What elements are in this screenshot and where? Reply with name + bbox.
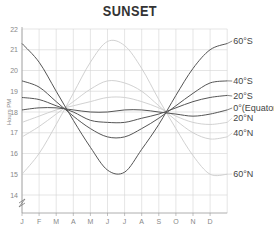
label-leader-line [227,118,232,122]
sunset-line-chart: 222120191817161514 JFMAMJJASOND Hours PM… [0,0,274,228]
x-tick-label: M [87,218,93,225]
x-tick-label: D [208,218,213,225]
x-tick-label: A [139,218,144,225]
series-label-40-s: 40°S [233,76,253,86]
x-tick-label: F [37,218,41,225]
axes [19,27,227,213]
y-tick-label: 20 [10,67,18,74]
y-tick-label: 14 [10,192,18,199]
x-tick-label: A [71,218,76,225]
x-tick-label: J [123,218,127,225]
y-tick-label: 22 [10,26,18,33]
label-leader-line [227,95,232,96]
series-label-60-s: 60°S [233,36,253,46]
y-axis-label: Hours PM [6,99,12,126]
x-axis-ticks: JFMAMJJASOND [20,213,212,225]
y-tick-label: 16 [10,150,18,157]
y-tick-label: 17 [10,129,18,136]
y-tick-label: 21 [10,46,18,53]
series-label-40-n: 40°N [233,128,253,138]
series-label-60-n: 60°N [233,169,253,179]
label-leader-line [227,133,232,137]
y-tick-label: 15 [10,171,18,178]
grid-lines [22,29,227,213]
x-tick-label: O [173,218,179,225]
series-label-20-n: 20°N [233,113,253,123]
x-tick-label: J [20,218,24,225]
series-label-0-equator: 0°(Equator) [233,103,274,113]
label-leader-line [227,41,232,44]
label-leader-line [227,108,232,110]
x-tick-label: S [156,218,161,225]
series-label-20-s: 20°S [233,91,253,101]
x-tick-label: J [106,218,110,225]
y-tick-label: 19 [10,88,18,95]
series-labels: 60°S40°S20°S0°(Equator)20°N40°N60°N [227,36,274,179]
x-tick-label: M [53,218,59,225]
x-tick-label: N [190,218,195,225]
